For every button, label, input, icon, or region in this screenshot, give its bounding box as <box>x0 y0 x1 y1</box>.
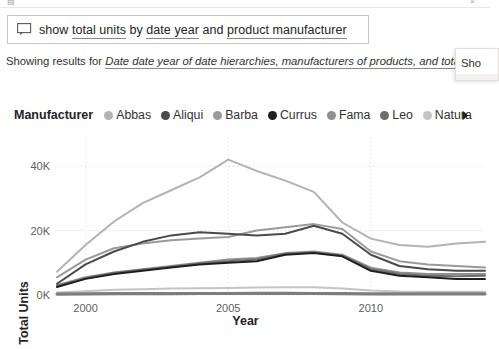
legend-next-page-button[interactable] <box>458 108 472 122</box>
qna-segment-3[interactable]: date year <box>146 23 199 39</box>
chevron-right-icon <box>461 110 470 121</box>
legend-item-label: Abbas <box>116 108 151 122</box>
legend-color-dot <box>423 111 432 120</box>
toolbar-divider <box>0 0 491 8</box>
legend-item-fama[interactable]: Fama <box>327 108 370 122</box>
clipped-top-toolbar: ▤ × <box>0 0 491 8</box>
close-icon[interactable]: × <box>470 0 475 6</box>
chart-legend: Manufacturer Abbas Aliqui Barba Currus F… <box>14 105 477 125</box>
qna-speech-bubble-icon <box>17 23 32 36</box>
legend-item-abbas[interactable]: Abbas <box>104 108 151 122</box>
series-line-currus[interactable] <box>57 253 485 287</box>
y-tick-label: 20K <box>30 225 50 237</box>
qna-segment-4: and <box>199 23 227 37</box>
legend-item-aliqui[interactable]: Aliqui <box>161 108 203 122</box>
legend-item-label: Leo <box>392 108 413 122</box>
legend-title: Manufacturer <box>14 108 93 122</box>
legend-item-label: Barba <box>225 108 258 122</box>
legend-items: Abbas Aliqui Barba Currus Fama Leo Natur… <box>104 108 482 122</box>
side-overlay-footer <box>456 74 498 80</box>
x-axis-title: Year <box>0 314 491 328</box>
legend-item-leo[interactable]: Leo <box>380 108 413 122</box>
legend-color-dot <box>380 111 389 120</box>
x-tick-label: 2000 <box>73 302 97 312</box>
y-tick-label: 40K <box>30 160 50 172</box>
qna-segment-0: show <box>39 23 72 37</box>
legend-item-currus[interactable]: Currus <box>268 108 317 122</box>
legend-color-dot <box>327 111 336 120</box>
x-tick-label: 2005 <box>216 302 240 312</box>
y-tick-label: 0K <box>37 289 51 301</box>
qna-question-box[interactable]: show total units by date year and produc… <box>7 15 369 44</box>
legend-item-label: Fama <box>339 108 370 122</box>
series-line-natura[interactable] <box>57 287 485 292</box>
showing-results-line: Showing results for Date date year of da… <box>6 55 460 67</box>
side-overlay-panel[interactable]: Sho <box>455 48 499 81</box>
series-line-baseline[interactable] <box>57 293 485 294</box>
showing-results-link[interactable]: Date date year of date hierarchies, manu… <box>105 55 460 69</box>
x-tick-label: 2010 <box>359 302 383 312</box>
legend-color-dot <box>268 111 277 120</box>
legend-color-dot <box>104 111 113 120</box>
line-chart[interactable]: Total Units Year 0K20K40K200020052010 <box>0 132 491 343</box>
menu-icon[interactable]: ▤ <box>7 0 15 6</box>
legend-item-barba[interactable]: Barba <box>213 108 258 122</box>
legend-color-dot <box>213 111 222 120</box>
qna-segment-5[interactable]: product manufacturer <box>227 23 347 39</box>
qna-segment-1[interactable]: total units <box>72 23 126 39</box>
side-overlay-text: Sho <box>461 57 481 69</box>
qna-segment-2: by <box>126 23 146 37</box>
chart-plot-svg[interactable]: 0K20K40K200020052010 <box>0 132 491 312</box>
qna-question-text[interactable]: show total units by date year and produc… <box>39 23 347 37</box>
showing-results-prefix: Showing results for <box>6 55 105 67</box>
legend-item-label: Currus <box>280 108 317 122</box>
legend-color-dot <box>161 111 170 120</box>
legend-item-label: Aliqui <box>173 108 203 122</box>
